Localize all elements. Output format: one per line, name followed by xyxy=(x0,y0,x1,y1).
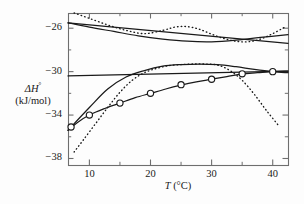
data-point-marker xyxy=(117,100,123,106)
x-axis-title-unit: (°C) xyxy=(173,180,191,191)
x-axis-title-symbol: T xyxy=(165,180,171,191)
y-tick-label: −30 xyxy=(28,65,62,76)
x-tick-label: 40 xyxy=(261,168,285,179)
y-axis-title-unit: (kJ/mol) xyxy=(2,95,64,107)
chart-figure: ΔH° (kJ/mol) T (°C) −26−30−34−38 1020304… xyxy=(0,0,304,204)
data-point-marker xyxy=(68,124,74,130)
data-point-marker xyxy=(209,76,215,82)
y-tick-label: −38 xyxy=(28,151,62,162)
data-point-marker xyxy=(239,71,245,77)
data-point-marker xyxy=(270,69,276,75)
x-axis-title: T (°C) xyxy=(68,180,288,191)
data-point-marker xyxy=(86,112,92,118)
x-tick-label: 20 xyxy=(139,168,163,179)
x-tick-label: 10 xyxy=(77,168,101,179)
y-tick-label: −26 xyxy=(28,21,62,32)
y-tick-label: −34 xyxy=(28,108,62,119)
y-axis-title-degree: ° xyxy=(38,81,41,89)
data-point-marker xyxy=(178,82,184,88)
x-tick-label: 30 xyxy=(200,168,224,179)
y-axis-title: ΔH° (kJ/mol) xyxy=(2,79,64,107)
data-point-marker xyxy=(147,90,153,96)
y-axis-title-symbol: ΔH xyxy=(25,83,39,94)
